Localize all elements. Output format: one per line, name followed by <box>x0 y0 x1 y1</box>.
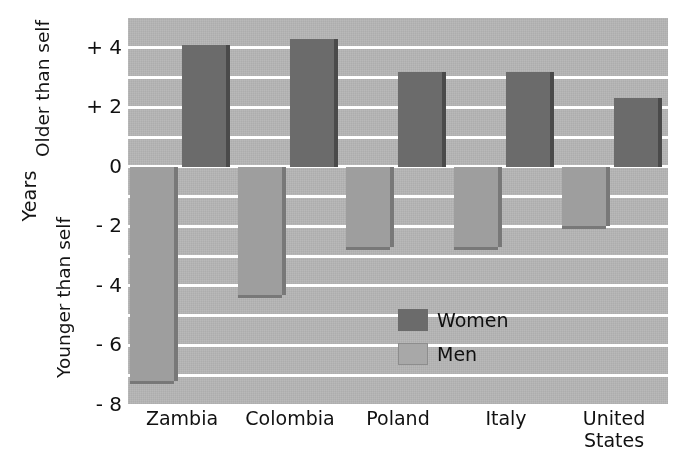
bar-face <box>238 167 282 295</box>
legend-label: Men <box>437 343 477 365</box>
bar-men-colombia <box>238 167 282 295</box>
bar-edge-shadow <box>226 45 230 167</box>
bar-face <box>454 167 498 247</box>
gridline <box>128 404 668 406</box>
bar-edge-shadow <box>282 167 286 295</box>
x-tick-label-line: Poland <box>366 407 429 429</box>
bar-bottom-shadow <box>454 247 498 250</box>
bar-men-united-states <box>562 167 606 227</box>
y-axis-tick-labels: + 4+ 20- 2- 4- 6- 8 <box>60 0 122 471</box>
legend-swatch-women <box>398 309 428 331</box>
legend: WomenMen <box>398 303 568 371</box>
bar-edge-shadow <box>550 72 554 167</box>
x-tick-label-line: Zambia <box>146 407 218 429</box>
x-tick-label-line: States <box>560 430 668 452</box>
bar-bottom-shadow <box>238 295 282 298</box>
bar-face <box>614 98 658 166</box>
bar-face <box>290 39 334 167</box>
y-tick-label: 0 <box>64 156 122 176</box>
legend-item-men: Men <box>398 337 568 371</box>
bar-edge-shadow <box>334 39 338 167</box>
bar-men-poland <box>346 167 390 247</box>
bar-face <box>398 72 442 167</box>
x-tick-label-zambia: Zambia <box>128 408 236 430</box>
legend-label: Women <box>437 309 509 331</box>
y-tick-label: - 2 <box>64 215 122 235</box>
bar-face <box>182 45 226 167</box>
y-tick-label: + 4 <box>64 37 122 57</box>
bar-women-poland <box>398 72 442 167</box>
bar-men-zambia <box>130 167 174 381</box>
bar-edge-shadow <box>442 72 446 167</box>
bar-men-italy <box>454 167 498 247</box>
y-tick-label: - 8 <box>64 394 122 414</box>
bar-women-zambia <box>182 45 226 167</box>
bar-women-united-states <box>614 98 658 166</box>
x-tick-label-poland: Poland <box>344 408 452 430</box>
legend-swatch-men <box>398 343 428 365</box>
x-tick-label-line: Colombia <box>245 407 334 429</box>
chart-figure: Years Older than self Younger than self … <box>0 0 674 471</box>
bar-edge-shadow <box>390 167 394 247</box>
bar-edge-shadow <box>174 167 178 381</box>
y-tick-label: + 2 <box>64 96 122 116</box>
x-tick-label-line: Italy <box>485 407 526 429</box>
bar-face <box>130 167 174 381</box>
gridline <box>128 374 668 377</box>
bar-face <box>346 167 390 247</box>
y-axis-label-older-than-self: Older than self <box>32 5 53 173</box>
bar-women-colombia <box>290 39 334 167</box>
x-tick-label-united-states: UnitedStates <box>560 408 668 452</box>
bar-edge-shadow <box>658 98 662 166</box>
plot-area: WomenMen <box>128 18 668 405</box>
y-tick-label: - 6 <box>64 334 122 354</box>
x-axis-tick-labels: ZambiaColombiaPolandItalyUnitedStates <box>128 408 668 468</box>
gridline <box>128 284 668 287</box>
y-tick-label: - 4 <box>64 275 122 295</box>
x-tick-label-line: United <box>583 407 645 429</box>
gridline <box>128 255 668 258</box>
x-tick-label-italy: Italy <box>452 408 560 430</box>
bar-women-italy <box>506 72 550 167</box>
bar-bottom-shadow <box>130 381 174 384</box>
bar-edge-shadow <box>498 167 502 247</box>
bar-bottom-shadow <box>562 226 606 229</box>
x-tick-label-colombia: Colombia <box>236 408 344 430</box>
bar-face <box>562 167 606 227</box>
bar-edge-shadow <box>606 167 610 227</box>
bar-bottom-shadow <box>346 247 390 250</box>
legend-item-women: Women <box>398 303 568 337</box>
bar-face <box>506 72 550 167</box>
